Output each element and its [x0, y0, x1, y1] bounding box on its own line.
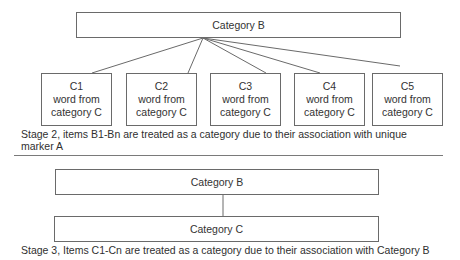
stage3-category-b-label: Category B: [191, 176, 244, 189]
stage3-category-c-box: Category C: [54, 216, 379, 242]
stage2-category-b-box: Category B: [76, 12, 401, 38]
stage2-caption: Stage 2, items B1-Bn are treated as a ca…: [21, 128, 421, 152]
c1-line2: category C: [51, 106, 102, 119]
stage-divider: [14, 155, 443, 156]
stage3-category-b-box: Category B: [55, 169, 379, 195]
c5-line2: category C: [382, 106, 433, 119]
stage2-category-b-label: Category B: [212, 19, 265, 32]
connector-b-c5: [203, 38, 400, 66]
c2-id: C2: [155, 80, 168, 93]
c5-line1: word from: [384, 93, 431, 106]
c2-line2: category C: [136, 106, 187, 119]
c3-id: C3: [239, 80, 252, 93]
c1-id: C1: [70, 80, 83, 93]
category-c-box-c3: C3 word from category C: [210, 73, 281, 126]
category-c-box-c1: C1 word from category C: [41, 73, 112, 126]
c3-line2: category C: [220, 106, 271, 119]
c3-line1: word from: [222, 93, 269, 106]
c4-id: C4: [323, 80, 336, 93]
category-c-box-c2: C2 word from category C: [126, 73, 197, 126]
c5-id: C5: [401, 80, 414, 93]
category-c-box-c4: C4 word from category C: [294, 73, 365, 126]
connector-b-c1: [92, 38, 203, 73]
c1-line1: word from: [53, 93, 100, 106]
c4-line1: word from: [306, 93, 353, 106]
stage3-category-c-label: Category C: [190, 223, 243, 236]
category-c-box-c5: C5 word from category C: [372, 73, 443, 126]
connector-b-c3: [203, 38, 266, 73]
connector-b-c4: [203, 38, 320, 73]
c4-line2: category C: [304, 106, 355, 119]
connector-b-c2: [188, 38, 203, 73]
stage3-caption: Stage 3, Items C1-Cn are treated as a ca…: [21, 244, 460, 256]
c2-line1: word from: [138, 93, 185, 106]
